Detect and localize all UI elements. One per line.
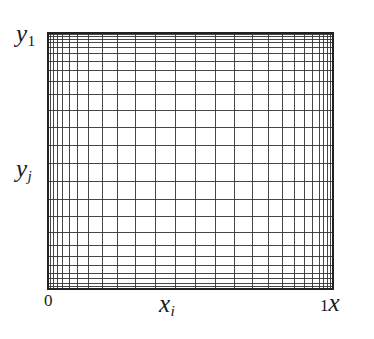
x-axis-mid-label: xi bbox=[159, 291, 175, 319]
y-axis-top-label: y1 bbox=[16, 21, 35, 49]
x-mid-subscript: i bbox=[170, 302, 175, 319]
x-axis-name: x bbox=[329, 289, 340, 316]
y-axis-mid-label: yj bbox=[16, 156, 32, 184]
y-mid-base: y bbox=[16, 155, 27, 182]
y-top-subscript: 1 bbox=[27, 32, 35, 49]
y-top-base: y bbox=[16, 20, 27, 47]
x-axis-end-label: 1x bbox=[320, 290, 340, 315]
x-mid-base: x bbox=[159, 290, 170, 317]
vertical-grid-lines-group bbox=[48, 33, 333, 289]
x-end-value: 1 bbox=[320, 296, 329, 315]
horizontal-grid-lines-group bbox=[48, 33, 333, 289]
x-axis-origin-label: 0 bbox=[44, 292, 53, 309]
grid-mesh-plot bbox=[0, 0, 374, 339]
y-mid-subscript: j bbox=[27, 167, 32, 184]
plot-border bbox=[48, 33, 333, 289]
mesh-figure: y1 yj 0 xi 1x bbox=[0, 0, 374, 339]
